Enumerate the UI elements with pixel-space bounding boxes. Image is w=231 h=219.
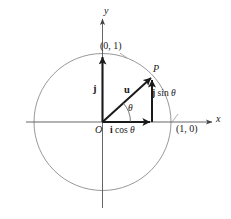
cos-symbol: cos — [115, 125, 128, 135]
point-p-label: P — [153, 64, 159, 74]
theta-label: θ — [128, 104, 133, 114]
right-coord-leader — [172, 114, 178, 122]
right-coordinate-label: (1, 0) — [176, 124, 198, 134]
x-angle-symbol: θ — [130, 125, 135, 135]
vector-u-label: u — [124, 85, 130, 96]
x-axis-label: x — [216, 114, 220, 124]
figure-canvas — [0, 0, 231, 219]
unit-circle-figure: y x O (0, 1) (1, 0) P j u θ i cos θ j si… — [0, 0, 231, 219]
j-sin-theta-label: j sin θ — [152, 89, 176, 99]
sin-symbol: sin — [158, 88, 169, 98]
vector-j-label: j — [93, 84, 97, 95]
top-coordinate-label: (0, 1) — [100, 41, 122, 51]
y-angle-symbol: θ — [171, 88, 176, 98]
i-cos-theta-label: i cos θ — [110, 126, 135, 136]
origin-label: O — [95, 125, 102, 135]
y-axis-label: y — [104, 6, 108, 16]
i-basis-symbol: i — [110, 125, 113, 135]
j-basis-symbol: j — [152, 88, 155, 98]
